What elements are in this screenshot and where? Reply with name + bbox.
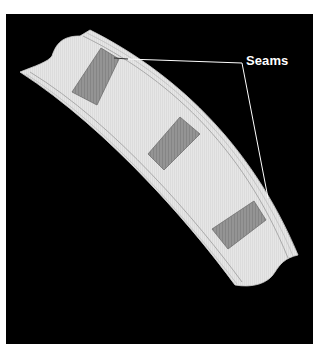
seams-label: Seams bbox=[246, 53, 288, 68]
